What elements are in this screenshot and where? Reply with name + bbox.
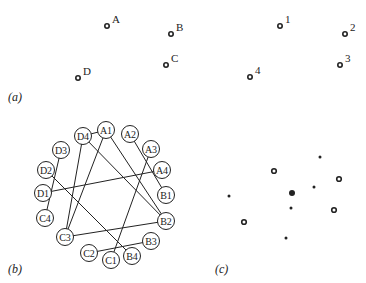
ring-marker-1 [272, 169, 277, 174]
numbered-point-4-label: 4 [255, 64, 261, 76]
dot-marker-1 [319, 156, 322, 159]
panel-label-c: (c) [215, 262, 228, 276]
point-d-label: D [83, 65, 91, 77]
edge-c2-b3 [89, 241, 151, 253]
node-label-b4: B4 [126, 251, 138, 262]
point-c-label: C [171, 52, 178, 64]
ring-marker-4 [242, 220, 247, 225]
node-label-a2: A2 [124, 129, 136, 140]
node-label-d1: D1 [37, 188, 49, 199]
numbered-point-1-label: 1 [285, 13, 291, 25]
dot-marker-2 [313, 186, 316, 189]
panel-c-points [228, 156, 342, 240]
dot-marker-4 [289, 190, 295, 196]
dot-marker-5 [290, 207, 293, 210]
dot-marker-6 [285, 237, 288, 240]
node-label-d2: D2 [40, 165, 52, 176]
panel-label-b: (b) [8, 262, 22, 276]
point-c-marker [164, 63, 168, 67]
dot-marker-3 [228, 195, 231, 198]
ring-marker-3 [332, 208, 337, 213]
figure-canvas: ABCD 1234 A1A2A3A4B1B2B3B4C1C2C3C4D1D2D3… [0, 0, 366, 283]
numbered-point-2-marker [343, 32, 347, 36]
panel-b-nodes: A1A2A3A4B1B2B3B4C1C2C3C4D1D2D3D4 [35, 122, 175, 269]
numbered-point-4-marker [248, 75, 252, 79]
numbered-point-3-label: 3 [345, 52, 351, 64]
edge-d3-c4 [45, 150, 61, 218]
node-label-c2: C2 [83, 248, 95, 259]
point-a-label: A [112, 13, 120, 25]
point-d-marker [76, 76, 80, 80]
point-a-marker [105, 24, 109, 28]
panel-label-a: (a) [8, 90, 22, 104]
numbered-point-1-marker [278, 24, 282, 28]
node-label-c4: C4 [39, 213, 51, 224]
panel-a-numbered-points: 1234 [248, 13, 356, 79]
node-label-c1: C1 [105, 255, 117, 266]
edge-a1-c3 [65, 130, 106, 237]
node-label-d3: D3 [55, 145, 67, 156]
numbered-point-3-marker [338, 63, 342, 67]
node-label-c3: C3 [59, 232, 71, 243]
numbered-point-2-label: 2 [350, 21, 356, 33]
node-label-b1: B1 [160, 190, 172, 201]
node-label-a4: A4 [156, 165, 168, 176]
panel-a-points: ABCD [76, 13, 184, 80]
point-b-marker [169, 32, 173, 36]
edge-a4-d1 [43, 170, 162, 193]
node-label-b2: B2 [160, 216, 172, 227]
node-label-b3: B3 [145, 236, 157, 247]
point-b-label: B [176, 21, 183, 33]
node-label-d4: D4 [77, 131, 89, 142]
node-label-a3: A3 [145, 144, 157, 155]
node-label-a1: A1 [100, 125, 112, 136]
ring-marker-2 [337, 177, 342, 182]
